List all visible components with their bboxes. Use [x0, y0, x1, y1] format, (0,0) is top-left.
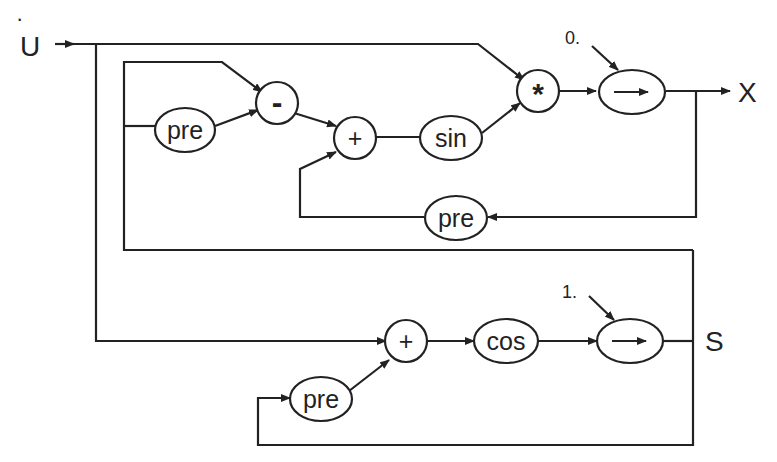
node-plus-top: + [348, 124, 363, 152]
node-pre-feedback: pre [438, 204, 474, 232]
node-minus: - [272, 84, 283, 120]
node-cos: cos [487, 327, 526, 355]
node-multiply: * [532, 77, 544, 110]
output-label-x: X [738, 77, 757, 108]
node-pre-top: pre [167, 116, 203, 144]
init-label-bottom: 1. [562, 282, 577, 302]
dataflow-diagram: · U X S 0. 1. pre - + sin * pre + cos pr… [0, 0, 777, 462]
output-label-s: S [705, 326, 724, 357]
input-dot: · [16, 6, 23, 31]
init-label-top: 0. [565, 28, 580, 48]
node-sin: sin [435, 124, 467, 152]
diagram-svg: · U X S 0. 1. pre - + sin * pre + cos pr… [0, 0, 777, 462]
node-pre-bottom: pre [303, 385, 339, 413]
input-label-u: U [20, 31, 40, 62]
node-plus-bottom: + [399, 327, 414, 355]
